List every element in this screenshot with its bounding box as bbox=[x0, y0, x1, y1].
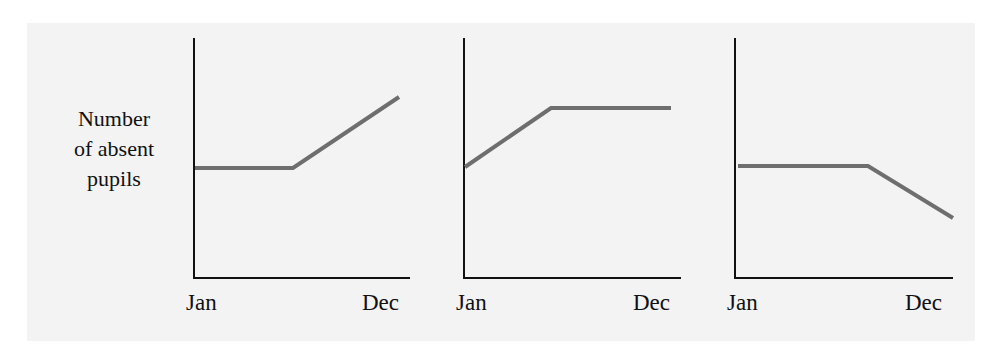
chart-3-x-start: Jan bbox=[727, 290, 758, 316]
charts-svg bbox=[0, 0, 989, 349]
chart-2-line bbox=[465, 108, 671, 167]
chart-1 bbox=[193, 38, 410, 278]
chart-3-x-end: Dec bbox=[905, 290, 942, 316]
chart-1-line bbox=[195, 97, 399, 168]
chart-3 bbox=[734, 38, 953, 278]
chart-1-x-start: Jan bbox=[186, 290, 217, 316]
chart-2-x-end: Dec bbox=[633, 290, 670, 316]
chart-3-line bbox=[738, 166, 953, 218]
chart-2-x-start: Jan bbox=[456, 290, 487, 316]
chart-2 bbox=[463, 38, 681, 278]
chart-1-x-end: Dec bbox=[362, 290, 399, 316]
